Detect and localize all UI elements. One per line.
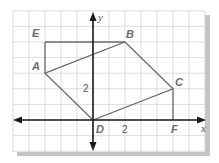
point-label-c: C bbox=[175, 76, 184, 88]
x-axis-label: x bbox=[200, 122, 206, 134]
coordinate-plane-diagram: y x 2 2 E A B C D F bbox=[0, 0, 219, 163]
x-tick-label-2: 2 bbox=[122, 124, 128, 135]
point-label-f: F bbox=[171, 123, 178, 135]
point-label-a: A bbox=[31, 60, 40, 72]
point-label-b: B bbox=[126, 28, 134, 40]
point-label-e: E bbox=[32, 27, 40, 39]
y-axis-label: y bbox=[97, 11, 103, 23]
point-label-d: D bbox=[96, 123, 104, 135]
y-tick-label-2: 2 bbox=[83, 83, 89, 94]
